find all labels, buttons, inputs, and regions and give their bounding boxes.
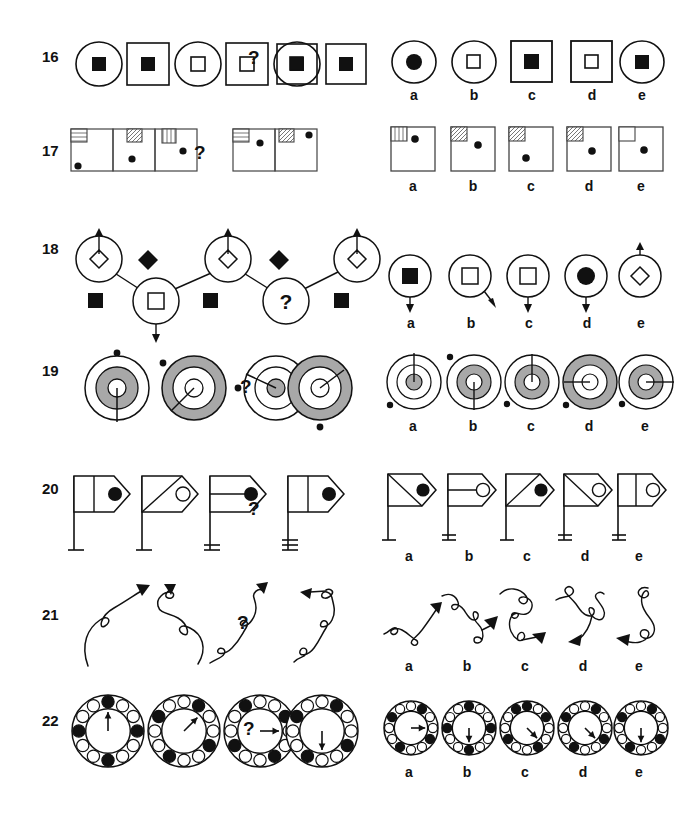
- option-label-c: c: [510, 764, 540, 780]
- option-e-16[interactable]: [618, 38, 666, 86]
- svg-text:?: ?: [280, 290, 293, 313]
- option-label-b: b: [452, 764, 482, 780]
- option-label-c: c: [514, 315, 544, 331]
- option-e-22[interactable]: [612, 688, 670, 768]
- puzzle-row-19: 19 ?: [0, 344, 659, 444]
- option-a-20[interactable]: [382, 466, 444, 548]
- option-label-a: a: [394, 764, 424, 780]
- option-e-20[interactable]: [612, 466, 674, 548]
- puzzle-row-20: 20 ?: [0, 462, 659, 572]
- question-mark: ?: [248, 498, 260, 520]
- option-a-18[interactable]: [384, 254, 440, 316]
- option-c-19[interactable]: [502, 348, 562, 418]
- option-b-17[interactable]: [450, 126, 498, 174]
- option-e-18[interactable]: [614, 242, 670, 304]
- option-label-e: e: [624, 548, 654, 564]
- option-label-a: a: [398, 418, 428, 434]
- option-a-19[interactable]: [384, 348, 444, 418]
- option-e-17[interactable]: [618, 126, 666, 174]
- row-number-20: 20: [42, 480, 59, 497]
- option-label-b: b: [458, 178, 488, 194]
- sequence-item: [232, 128, 320, 178]
- option-d-21[interactable]: [554, 582, 620, 662]
- option-b-19[interactable]: [444, 348, 504, 418]
- option-label-c: c: [517, 87, 547, 103]
- question-mark: ?: [194, 142, 206, 164]
- option-label-e: e: [630, 418, 660, 434]
- row-number-19: 19: [42, 362, 59, 379]
- option-label-b: b: [459, 87, 489, 103]
- option-label-d: d: [577, 87, 607, 103]
- sequence-item: ?: [66, 212, 366, 320]
- sequence-item: [276, 578, 366, 668]
- option-c-20[interactable]: [500, 466, 562, 548]
- question-mark: ?: [240, 376, 252, 398]
- option-a-22[interactable]: [382, 688, 440, 768]
- row-number-16: 16: [42, 48, 59, 65]
- row-number-22: 22: [42, 712, 59, 729]
- option-a-16[interactable]: [390, 38, 438, 86]
- option-label-d: d: [574, 418, 604, 434]
- option-c-22[interactable]: [498, 688, 556, 768]
- option-b-20[interactable]: [442, 466, 504, 548]
- option-label-a: a: [398, 178, 428, 194]
- puzzle-row-16: 16: [0, 30, 659, 105]
- option-label-b: b: [452, 658, 482, 674]
- option-label-e: e: [626, 178, 656, 194]
- option-d-18[interactable]: [560, 254, 616, 316]
- option-label-a: a: [396, 315, 426, 331]
- option-label-a: a: [394, 658, 424, 674]
- question-mark: ?: [237, 612, 249, 634]
- option-b-18[interactable]: [444, 254, 500, 316]
- option-label-a: a: [394, 548, 424, 564]
- option-label-c: c: [512, 548, 542, 564]
- option-e-19[interactable]: [616, 348, 676, 418]
- option-label-d: d: [570, 548, 600, 564]
- option-label-d: d: [572, 315, 602, 331]
- sequence-item: [282, 686, 362, 776]
- puzzle-row-17: 17 ?: [0, 122, 659, 202]
- sequence-item: [70, 344, 310, 436]
- option-label-c: c: [516, 418, 546, 434]
- sequence-item: [70, 128, 200, 178]
- option-b-16[interactable]: [450, 38, 498, 86]
- question-mark: ?: [248, 47, 260, 69]
- option-label-d: d: [568, 764, 598, 780]
- option-label-c: c: [510, 658, 540, 674]
- option-label-a: a: [399, 87, 429, 103]
- option-a-17[interactable]: [390, 126, 438, 174]
- option-label-e: e: [624, 658, 654, 674]
- option-label-e: e: [627, 87, 657, 103]
- puzzle-row-18: 18: [0, 212, 659, 322]
- option-label-e: e: [624, 764, 654, 780]
- option-label-d: d: [574, 178, 604, 194]
- option-e-21[interactable]: [612, 582, 674, 662]
- row-number-17: 17: [42, 142, 59, 159]
- sequence-item: [70, 686, 300, 776]
- option-b-22[interactable]: [440, 688, 498, 768]
- sequence-item: [276, 43, 318, 85]
- option-label-b: b: [454, 548, 484, 564]
- option-label-e: e: [626, 315, 656, 331]
- option-label-d: d: [568, 658, 598, 674]
- option-label-b: b: [456, 315, 486, 331]
- option-d-22[interactable]: [556, 688, 614, 768]
- option-label-c: c: [516, 178, 546, 194]
- option-label-b: b: [458, 418, 488, 434]
- option-b-21[interactable]: [440, 582, 502, 662]
- sequence-item: [282, 462, 372, 560]
- option-c-21[interactable]: [498, 582, 560, 662]
- puzzle-row-22: 22 ? a b c d e: [0, 686, 659, 796]
- option-d-16[interactable]: [570, 40, 614, 84]
- sequence-item: [325, 43, 367, 85]
- sequence-item: [68, 462, 298, 560]
- option-c-17[interactable]: [508, 126, 556, 174]
- option-d-20[interactable]: [558, 466, 620, 548]
- question-mark: ?: [243, 718, 255, 740]
- option-c-16[interactable]: [510, 40, 554, 84]
- option-d-17[interactable]: [566, 126, 614, 174]
- option-c-18[interactable]: [502, 254, 558, 316]
- row-number-18: 18: [42, 240, 59, 257]
- option-d-19[interactable]: [560, 348, 620, 418]
- option-a-21[interactable]: [382, 582, 444, 662]
